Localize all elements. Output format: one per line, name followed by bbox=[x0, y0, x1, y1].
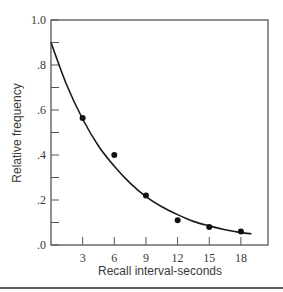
y-tick-label: .6 bbox=[37, 103, 46, 117]
y-tick-label: .8 bbox=[37, 58, 46, 72]
data-point bbox=[143, 193, 149, 199]
chart: .0.2.4.6.81.0 369121518 Recall interval-… bbox=[0, 0, 283, 292]
y-tick-label: .2 bbox=[37, 193, 46, 207]
x-tick-label: 18 bbox=[235, 251, 247, 265]
data-point bbox=[238, 229, 244, 235]
y-axis-title: Relative frequency bbox=[10, 83, 24, 182]
x-tick-label: 3 bbox=[80, 251, 86, 265]
x-axis-title: Recall interval-seconds bbox=[98, 264, 222, 278]
data-point bbox=[175, 217, 181, 223]
x-axis-ticks: 369121518 bbox=[80, 237, 247, 265]
y-tick-label: 1.0 bbox=[31, 13, 46, 27]
data-point bbox=[111, 152, 117, 158]
data-point bbox=[80, 115, 86, 121]
y-tick-label: .0 bbox=[37, 238, 46, 252]
x-tick-label: 12 bbox=[172, 251, 184, 265]
fitted-curve bbox=[51, 43, 251, 234]
x-tick-label: 6 bbox=[111, 251, 117, 265]
y-axis-ticks: .0.2.4.6.81.0 bbox=[31, 13, 59, 252]
data-points bbox=[80, 115, 244, 235]
x-tick-label: 15 bbox=[203, 251, 215, 265]
x-tick-label: 9 bbox=[143, 251, 149, 265]
data-point bbox=[206, 224, 212, 230]
plot-frame bbox=[51, 20, 268, 245]
y-tick-label: .4 bbox=[37, 148, 46, 162]
